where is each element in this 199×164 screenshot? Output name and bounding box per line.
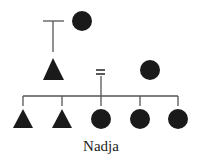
male-symbol-child-1: [13, 109, 33, 128]
male-symbol-child-2: [52, 109, 72, 128]
female-symbol-child-3: [91, 109, 111, 129]
female-symbol-child-4: [130, 109, 150, 129]
ego-label: Nadja: [83, 138, 119, 154]
female-symbol-child-5: [168, 109, 188, 129]
male-symbol-g2: [43, 58, 64, 80]
female-symbol-g1: [72, 11, 92, 31]
kinship-diagram: Nadja: [0, 0, 199, 164]
female-symbol-g2: [140, 60, 160, 80]
